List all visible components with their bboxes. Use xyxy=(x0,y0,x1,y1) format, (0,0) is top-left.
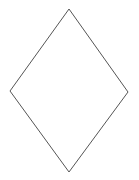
shape-svg xyxy=(0,0,139,180)
figure-canvas xyxy=(0,0,139,180)
canvas-background xyxy=(0,0,139,180)
